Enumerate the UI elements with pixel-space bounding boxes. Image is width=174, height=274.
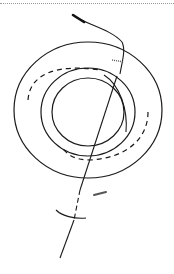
diagonal-axis-lower	[60, 220, 74, 258]
lead-line	[74, 16, 124, 74]
outer-circle	[14, 42, 162, 178]
diagonal-axis-dashed	[74, 190, 80, 220]
diagonal-axis	[80, 76, 117, 190]
middle-circle	[41, 68, 135, 156]
lower-cross-arc	[56, 210, 86, 218]
hatch-mark-bottom	[94, 192, 106, 195]
lead-tip	[73, 15, 84, 22]
concentric-circle-diagram	[0, 0, 174, 274]
